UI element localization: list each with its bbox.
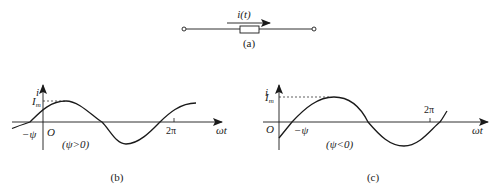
period-label: 2π: [424, 104, 434, 115]
period-label: 2π: [166, 125, 176, 136]
resistor-icon: [240, 26, 259, 33]
condition-label: (ψ<0): [326, 138, 353, 151]
caption-a: (a): [243, 37, 256, 50]
sine-curve: [279, 97, 447, 146]
current-label: i(t): [237, 8, 251, 21]
phase-label: −ψ: [22, 128, 36, 140]
condition-label: (ψ>0): [62, 138, 89, 151]
origin-label: O: [47, 126, 55, 138]
amplitude-label: Im: [264, 91, 274, 105]
x-axis-label: ωt: [472, 124, 484, 136]
caption-b: (b): [111, 171, 124, 184]
figure-b-waveform-plot: i ωt O Im −ψ 2π (ψ>0) (b): [12, 85, 228, 184]
figure-a-resistor-element: i(t) (a): [182, 8, 316, 50]
figure-c-waveform-plot: i ωt O Im −ψ 2π (ψ<0) (c): [263, 85, 488, 184]
caption-c: (c): [367, 171, 380, 184]
y-axis-label: i: [36, 86, 39, 98]
phase-label: −ψ: [294, 124, 308, 136]
left-terminal-icon: [182, 27, 186, 31]
x-axis-label: ωt: [216, 124, 228, 136]
origin-label: O: [266, 123, 274, 135]
right-terminal-icon: [312, 27, 316, 31]
diagram-canvas: i(t) (a) i ωt O Im −ψ 2π (ψ>0) (b) i: [0, 0, 491, 191]
